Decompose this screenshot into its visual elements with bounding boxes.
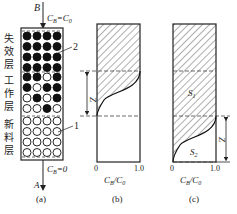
exhausted-resin-particle [43,84,51,92]
fresh-resin-particle [33,105,41,113]
callout-1: 1 [74,120,79,131]
exhausted-resin-particle [23,73,31,81]
exhausted-resin-particle [53,53,61,61]
x-label-c: CB/C0 [180,175,201,186]
bottom-condition: CB=0 [47,164,68,175]
exhausted-resin-particle [53,64,61,72]
fresh-resin-particle [43,73,51,81]
exhausted-resin-particle [33,43,41,51]
exhausted-resin-particle [53,94,61,102]
fresh-resin-particle [23,128,31,136]
label-B: B [34,2,40,13]
fresh-resin-particle [33,84,41,92]
exhausted-resin-particle [23,32,31,40]
top-condition: CB=C0 [47,13,72,24]
exhausted-resin-particle [33,32,41,40]
svg-text:层: 层 [4,101,14,112]
z-label-c: Z [217,137,227,143]
exhausted-resin-particle [33,53,41,61]
exhausted-resin-particle [53,32,61,40]
svg-text:工: 工 [4,75,14,86]
x-label-b: CB/C0 [104,175,125,186]
panel-b: Z 0 1.0 CB/C0 (b) [80,24,144,204]
svg-text:效: 效 [4,45,14,57]
exhausted-resin-particle [23,64,31,72]
fresh-resin-particle [33,138,41,146]
caption-a: (a) [36,194,46,204]
svg-text:失: 失 [4,32,14,44]
x-tick-0-c: 0 [170,164,174,173]
exhausted-resin-particle [53,43,61,51]
layer-label-working: 工 作 层 [4,75,14,112]
caption-b: (b) [112,194,123,204]
x-tick-1-b: 1.0 [134,164,144,173]
fresh-resin-particle [43,117,51,125]
panel-c: Z S1 S2 0 1.0 CB/C0 (c) [170,24,230,204]
x-tick-0-b: 0 [94,164,98,173]
fresh-resin-particle [53,149,61,157]
fresh-resin-particle [23,105,31,113]
exhausted-resin-particle [33,64,41,72]
fresh-resin-particle [23,117,31,125]
exhausted-resin-particle [23,53,31,61]
ion-exchange-diagram: B CB=C0 失 效 层 工 作 层 新 料 层 2 1 [0,0,237,214]
panel-a: B CB=C0 失 效 层 工 作 层 新 料 层 2 1 [4,2,79,204]
exhausted-resin-particle [43,32,51,40]
fresh-resin-particle [53,117,61,125]
exhausted-resin-particle [33,73,41,81]
fresh-resin-particle [33,149,41,157]
fresh-resin-particle [43,128,51,136]
saturated-region [97,24,140,116]
exhausted-resin-particle [43,43,51,51]
exhausted-resin-particle [43,53,51,61]
callout-2: 2 [73,41,78,52]
svg-text:作: 作 [4,88,14,99]
svg-text:料: 料 [4,131,14,143]
fresh-resin-particle [43,149,51,157]
exhausted-resin-particle [23,84,31,92]
fresh-resin-particle [33,117,41,125]
label-A: A [33,180,40,190]
fresh-resin-particle [33,128,41,136]
fresh-resin-particle [43,94,51,102]
fresh-resin-particle [53,105,61,113]
exhausted-resin-particle [53,84,61,92]
layer-label-failed: 失 效 层 [4,32,14,70]
exhausted-resin-particle [43,105,51,113]
layer-label-fresh: 新 料 层 [4,118,14,156]
x-tick-1-c: 1.0 [210,164,220,173]
fresh-resin-particle [23,138,31,146]
caption-c: (c) [189,194,199,204]
fresh-resin-particle [23,149,31,157]
fresh-resin-particle [23,94,31,102]
exhausted-resin-particle [23,43,31,51]
exhausted-resin-particle [53,73,61,81]
svg-text:层: 层 [4,145,14,156]
exhausted-resin-particle [33,94,41,102]
exhausted-resin-particle [43,64,51,72]
svg-text:新: 新 [4,118,14,130]
svg-text:层: 层 [4,59,14,70]
s2-label: S2 [190,147,198,158]
fresh-resin-particle [43,138,51,146]
fresh-resin-particle [53,138,61,146]
